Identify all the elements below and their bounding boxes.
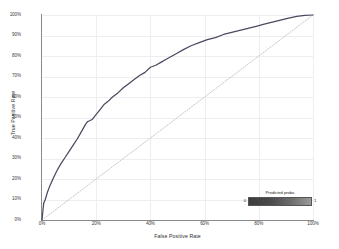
- legend-min-label: 0: [244, 199, 246, 203]
- legend: Predicted proba 0 1: [239, 191, 321, 213]
- x-tick-label: 0%: [27, 222, 57, 227]
- y-tick-label: 0%: [0, 218, 21, 223]
- roc-chart: 0%10%20%30%40%50%60%70%80%90%100% 0%20%4…: [0, 0, 339, 249]
- legend-max-label: 1: [314, 199, 316, 203]
- y-tick-label: 20%: [0, 177, 21, 182]
- x-tick-label: 100%: [298, 222, 328, 227]
- x-tick-label: 80%: [244, 222, 274, 227]
- legend-colorbar: [248, 197, 312, 206]
- x-tick-label: 40%: [135, 222, 165, 227]
- y-axis-title: True Positive Rate: [10, 68, 16, 158]
- x-axis-line: [41, 220, 314, 221]
- y-tick-label: 100%: [0, 13, 21, 18]
- gridline-vertical: [313, 15, 314, 220]
- y-tick-label: 10%: [0, 197, 21, 202]
- y-tick-label: 80%: [0, 54, 21, 59]
- y-tick-label: 90%: [0, 33, 21, 38]
- x-axis-title: False Positive Rate: [42, 233, 313, 239]
- x-tick-label: 20%: [81, 222, 111, 227]
- x-tick-label: 60%: [190, 222, 220, 227]
- legend-colorbar-row: 0 1: [239, 197, 321, 206]
